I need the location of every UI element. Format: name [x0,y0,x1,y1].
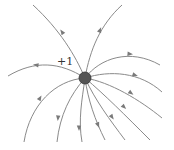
field-diagram [0,0,174,150]
point-charge [79,72,91,84]
arrow-icon [95,122,101,129]
field-line-left [8,65,85,78]
arrow-icon [121,104,128,111]
arrow-icon [56,115,61,121]
arrow-icon [33,62,39,67]
field-line-lower-left [24,78,85,142]
charge-label: +1 [57,56,73,67]
field-line-down [80,78,85,142]
arrow-icon [127,52,133,57]
field-line-top-right [85,5,122,78]
field-line-right-middle [85,74,162,92]
